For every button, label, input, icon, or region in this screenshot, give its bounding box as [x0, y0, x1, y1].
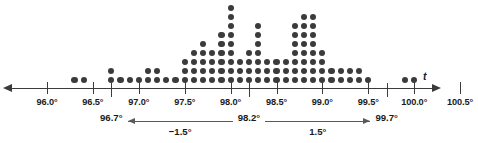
data-dot — [209, 50, 215, 56]
axis-tick-100.5 — [460, 82, 461, 94]
data-dot — [209, 77, 215, 83]
data-dot — [182, 68, 188, 74]
data-dot — [301, 14, 307, 20]
data-dot — [347, 68, 353, 74]
data-dot — [301, 32, 307, 38]
axis-tick-97.5 — [185, 82, 186, 94]
span-arrow-right-span — [363, 118, 370, 124]
data-dot — [246, 68, 252, 74]
data-dot — [301, 50, 307, 56]
data-dot — [163, 77, 169, 83]
data-dot — [218, 50, 224, 56]
data-dot — [237, 77, 243, 83]
data-dot — [264, 68, 270, 74]
span-arrow-left-span — [128, 118, 135, 124]
span-line-left-span — [128, 121, 233, 122]
data-dot — [145, 68, 151, 74]
axis-arrow-left — [3, 84, 12, 92]
data-dot — [81, 77, 87, 83]
data-dot — [255, 32, 261, 38]
data-dot — [292, 41, 298, 47]
axis-tick-96.0 — [47, 82, 48, 94]
data-dot — [356, 77, 362, 83]
data-dot — [310, 59, 316, 65]
data-dot — [117, 77, 123, 83]
data-dot — [228, 77, 234, 83]
data-dot — [246, 59, 252, 65]
data-dot — [255, 68, 261, 74]
data-dot — [209, 68, 215, 74]
data-dot — [292, 32, 298, 38]
data-dot — [255, 23, 261, 29]
data-dot — [228, 50, 234, 56]
data-dot — [273, 77, 279, 83]
data-dot — [127, 77, 133, 83]
data-dot — [328, 68, 334, 74]
data-dot — [310, 23, 316, 29]
data-dot — [200, 41, 206, 47]
data-dot — [310, 14, 316, 20]
data-dot — [292, 68, 298, 74]
data-dot — [154, 77, 160, 83]
axis-tick-label: 100.5° — [430, 97, 478, 107]
annotation-tick-mean — [249, 83, 250, 97]
axis-tick-98.0 — [231, 82, 232, 94]
data-dot — [246, 50, 252, 56]
data-dot — [255, 59, 261, 65]
data-dot — [328, 77, 334, 83]
axis-arrow-right — [432, 84, 441, 92]
data-dot — [301, 41, 307, 47]
data-dot — [145, 77, 151, 83]
axis-tick-97.0 — [139, 82, 140, 94]
data-dot — [136, 77, 142, 83]
data-dot — [319, 77, 325, 83]
span-label-left-span: −1.5° — [150, 126, 210, 137]
data-dot — [228, 32, 234, 38]
span-label-right-span: 1.5° — [288, 126, 348, 137]
data-dot — [347, 77, 353, 83]
data-dot — [310, 32, 316, 38]
data-dot — [228, 41, 234, 47]
data-dot — [191, 50, 197, 56]
data-dot — [292, 23, 298, 29]
axis-tick-99.5 — [368, 82, 369, 94]
data-dot — [356, 68, 362, 74]
data-dot — [255, 50, 261, 56]
data-dot — [237, 68, 243, 74]
data-dot — [292, 77, 298, 83]
data-dot — [273, 68, 279, 74]
data-dot — [310, 50, 316, 56]
data-dot — [283, 77, 289, 83]
data-dot — [182, 77, 188, 83]
data-dot — [310, 68, 316, 74]
data-dot — [108, 68, 114, 74]
data-dot — [200, 59, 206, 65]
data-dot — [228, 5, 234, 11]
annotation-tick-upper-bound — [387, 83, 388, 97]
data-dot — [218, 68, 224, 74]
data-dot — [411, 77, 417, 83]
data-dot — [191, 59, 197, 65]
data-dot — [319, 50, 325, 56]
data-dot — [237, 59, 243, 65]
data-dot — [182, 59, 188, 65]
data-dot — [319, 68, 325, 74]
data-dot — [218, 77, 224, 83]
data-dot — [292, 50, 298, 56]
data-dot — [191, 68, 197, 74]
data-dot — [228, 59, 234, 65]
data-dot — [172, 77, 178, 83]
data-dot — [301, 77, 307, 83]
data-dot — [264, 77, 270, 83]
data-dot — [191, 77, 197, 83]
data-dot — [200, 50, 206, 56]
data-dot — [200, 68, 206, 74]
data-dot — [228, 14, 234, 20]
data-dot — [255, 77, 261, 83]
data-dot — [310, 77, 316, 83]
data-dot — [71, 77, 77, 83]
data-dot — [283, 68, 289, 74]
data-dot — [310, 41, 316, 47]
data-dot — [319, 59, 325, 65]
